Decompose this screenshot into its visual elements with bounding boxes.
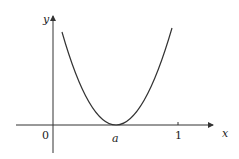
origin-label: 0 xyxy=(42,129,49,142)
y-axis-label: y xyxy=(42,13,50,26)
parabola-diagram: y x 0 a 1 xyxy=(0,0,239,159)
tick-1-label: 1 xyxy=(175,129,182,142)
x-axis-label: x xyxy=(222,127,229,140)
tick-a-label: a xyxy=(112,132,119,145)
parabola-curve xyxy=(62,28,172,125)
